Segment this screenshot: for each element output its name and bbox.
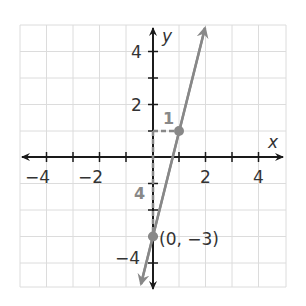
- x-tick-label: 2: [200, 167, 211, 187]
- intercept-point-label: (0, −3): [159, 229, 219, 249]
- y-tick-label: 4: [131, 42, 142, 62]
- x-tick-label: 4: [253, 167, 264, 187]
- x-axis-label: x: [267, 132, 279, 152]
- coordinate-plane: x y −4 −2 2 4 4 2 −4 1 4 (0, −3): [0, 0, 306, 306]
- rise-label: 4: [134, 184, 145, 203]
- run-label: 1: [163, 109, 174, 128]
- y-axis-label: y: [161, 26, 173, 46]
- y-tick-label: −4: [115, 248, 140, 268]
- x-tick-label: −2: [78, 167, 103, 187]
- x-tick-label: −4: [25, 167, 50, 187]
- point-0-neg3: [148, 232, 158, 242]
- point-1-1: [174, 126, 184, 136]
- y-tick-label: 2: [131, 95, 142, 115]
